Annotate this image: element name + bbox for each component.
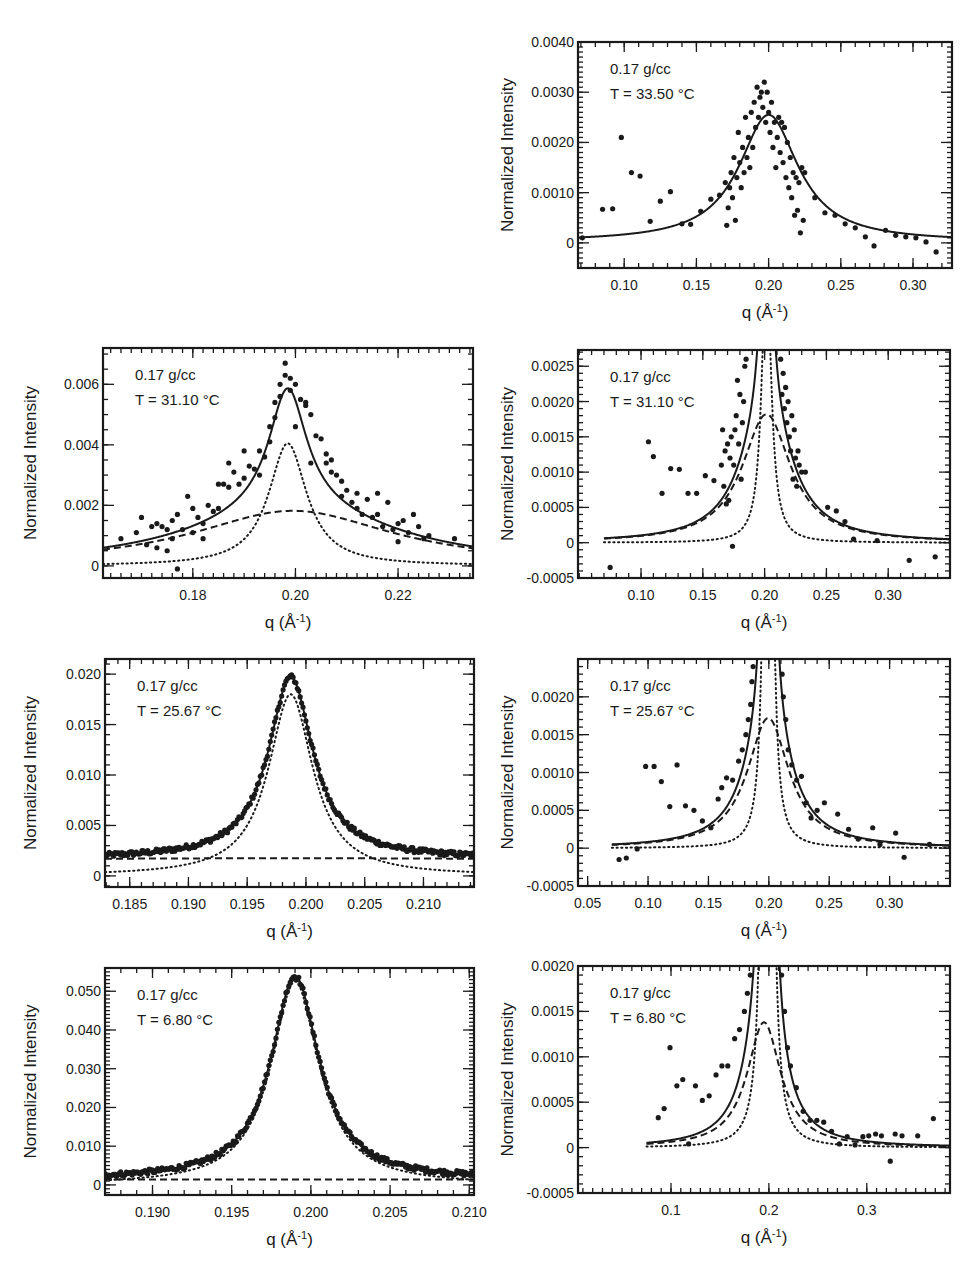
data-points [656,972,936,1163]
data-point [931,1116,936,1121]
dashed-curve-broad-component [647,1022,950,1146]
data-point [821,1120,826,1125]
plot-panel-6.80C-wide: 0.10.20.3-0.000500.00050.00100.00150.002… [0,0,976,1271]
data-point [732,1036,737,1041]
data-point [779,972,784,977]
density-annotation: 0.17 g/cc [610,984,671,1001]
data-point [814,1118,819,1123]
data-point [837,1141,842,1146]
x-tick-label: 0.1 [661,1202,681,1218]
data-point [860,1134,865,1139]
data-point [866,1133,871,1138]
data-point [674,1083,679,1088]
data-point [656,1115,661,1120]
data-point [745,991,750,996]
y-tick-label: 0.0010 [531,1049,574,1065]
data-point [899,1133,904,1138]
data-point [873,1131,878,1136]
data-point [829,1129,834,1134]
temperature-annotation: T = 6.80 °C [610,1009,686,1026]
solid-curve-total-fit [647,961,950,1146]
data-point [915,1133,920,1138]
figure-grid: 0.100.150.200.250.3000.00100.00200.00300… [0,0,976,1271]
data-point [686,1141,691,1146]
dotted-curve-narrow-component [647,961,950,1147]
y-tick-label: 0.0015 [531,1003,574,1019]
data-point [801,1109,806,1114]
data-point [667,1045,672,1050]
fit-curves [647,961,950,1147]
y-tick-label: -0.0005 [527,1185,575,1201]
data-point [888,1159,893,1164]
data-point [807,1118,812,1123]
data-point [662,1106,667,1111]
data-point [852,1142,857,1147]
x-axis-label: q (Å-1) [741,1227,788,1247]
data-point [725,1063,730,1068]
data-point [845,1134,850,1139]
x-tick-label: 0.2 [759,1202,779,1218]
data-point [700,1098,705,1103]
data-point [737,1027,742,1032]
data-point [879,1133,884,1138]
data-point [893,1131,898,1136]
data-point [742,1009,747,1014]
data-point [794,1085,799,1090]
data-point [680,1077,685,1082]
y-tick-label: 0.0020 [531,958,574,974]
y-tick-label: 0 [566,1140,574,1156]
y-tick-label: 0.0005 [531,1094,574,1110]
data-point [782,1009,787,1014]
data-point [713,1072,718,1077]
data-point [707,1093,712,1098]
x-tick-label: 0.3 [857,1202,877,1218]
y-axis-label: Normalized Intensity [498,1002,517,1157]
data-point [719,1063,724,1068]
data-point [788,1063,793,1068]
data-point [785,1045,790,1050]
data-point [693,1083,698,1088]
data-point [748,972,753,977]
